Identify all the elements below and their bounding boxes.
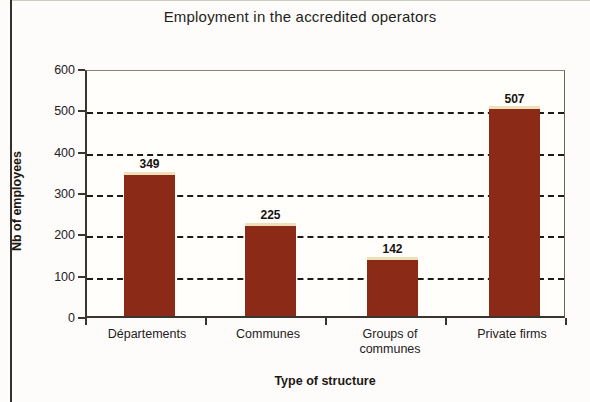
x-category-groups-of-communes-line2: communes: [325, 342, 455, 357]
y-tick-mark-200: [78, 234, 85, 236]
x-category-private-firms: Private firms: [447, 327, 577, 342]
y-tick-label-300: 300: [54, 187, 75, 201]
plot-area: 349 225 142 507: [85, 70, 565, 318]
x-category-groups-of-communes: Groups of communes: [325, 327, 455, 357]
bar-value-groups-of-communes: 142: [382, 242, 402, 256]
y-axis-label: Nb of employees: [10, 111, 24, 291]
y-tick-mark-0: [78, 317, 85, 319]
x-category-private-firms-line1: Private firms: [447, 327, 577, 342]
y-tick-mark-300: [78, 193, 85, 195]
x-category-groups-of-communes-line1: Groups of: [325, 327, 455, 342]
x-tick-mark-4: [565, 318, 567, 325]
y-tick-label-100: 100: [54, 270, 75, 284]
y-tick-label-600: 600: [54, 63, 75, 77]
bar-departements[interactable]: [124, 172, 175, 316]
y-tick-mark-100: [78, 276, 85, 278]
bar-value-departements: 349: [139, 157, 159, 171]
x-tick-mark-2: [325, 318, 327, 325]
y-tick-mark-500: [78, 110, 85, 112]
bar-private-firms[interactable]: [489, 106, 540, 316]
x-category-communes-line1: Communes: [203, 327, 333, 342]
x-axis-label: Type of structure: [85, 374, 565, 388]
bar-groups-of-communes[interactable]: [367, 257, 418, 316]
y-tick-label-500: 500: [54, 104, 75, 118]
figure-top-rule: [10, 0, 590, 1]
bar-value-communes: 225: [260, 208, 280, 222]
chart-title: Employment in the accredited operators: [10, 8, 590, 25]
x-category-departements: Départements: [82, 327, 212, 342]
y-tick-label-400: 400: [54, 146, 75, 160]
chart-figure: Employment in the accredited operators 6…: [0, 0, 590, 402]
x-tick-mark-0: [85, 318, 87, 325]
y-tick-mark-600: [78, 69, 85, 71]
y-tick-mark-400: [78, 152, 85, 154]
bar-value-private-firms: 507: [504, 92, 524, 106]
x-category-communes: Communes: [203, 327, 333, 342]
x-tick-mark-1: [205, 318, 207, 325]
y-tick-label-200: 200: [54, 228, 75, 242]
x-category-departements-line1: Départements: [82, 327, 212, 342]
bar-communes[interactable]: [245, 223, 296, 316]
y-tick-label-0: 0: [68, 311, 75, 325]
x-tick-mark-3: [445, 318, 447, 325]
